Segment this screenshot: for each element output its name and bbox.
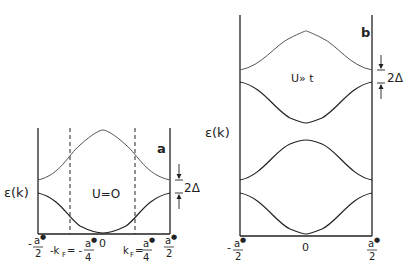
upper-band xyxy=(38,130,170,180)
svg-text:●: ● xyxy=(240,236,246,244)
svg-text:F: F xyxy=(62,251,66,259)
svg-text:2: 2 xyxy=(369,251,375,262)
band-1 xyxy=(240,193,372,234)
gap-label: 2Δ xyxy=(387,71,404,85)
svg-text:●: ● xyxy=(374,236,380,244)
u-zero-label: U=O xyxy=(92,187,120,201)
svg-text:2: 2 xyxy=(35,248,41,259)
svg-text:2: 2 xyxy=(166,248,172,259)
svg-text:-: - xyxy=(28,237,32,250)
tick-pos-half: a● 2 xyxy=(164,233,177,259)
svg-text:●: ● xyxy=(40,233,46,241)
band-3 xyxy=(240,82,372,123)
tick-neg-half: - a● 2 xyxy=(28,233,46,259)
gap-indicator: 2Δ xyxy=(175,164,201,209)
band-4 xyxy=(240,31,372,70)
svg-text:= -: = - xyxy=(67,245,83,256)
panel-a: ε(k) U=O a 2Δ - a● 2 -kF = - a● 4 0 kF xyxy=(4,128,201,263)
svg-text:k: k xyxy=(123,245,129,256)
svg-text:4: 4 xyxy=(85,252,91,263)
svg-text:2: 2 xyxy=(235,251,241,262)
tick-zero: 0 xyxy=(302,241,309,254)
svg-text:-k: -k xyxy=(50,245,60,256)
y-axis-label: ε(k) xyxy=(205,125,230,140)
panel-tag: b xyxy=(361,25,370,40)
svg-text:-: - xyxy=(227,241,231,254)
tick-pos-kf: kF = a● 4 xyxy=(123,236,155,263)
gap-label: 2Δ xyxy=(184,181,201,195)
tick-pos-half: a● 2 xyxy=(367,236,380,262)
u-large-label: U» t xyxy=(291,72,314,85)
band-structure-diagram: ε(k) U=O a 2Δ - a● 2 -kF = - a● 4 0 kF xyxy=(0,0,415,276)
panel-tag: a xyxy=(157,141,166,156)
svg-text:●: ● xyxy=(91,236,97,244)
svg-text:4: 4 xyxy=(143,252,149,263)
panel-b: ε(k) U» t b 2Δ - a● 2 0 a● 2 xyxy=(205,15,404,262)
tick-neg-kf: -kF = - a● 4 xyxy=(50,236,97,263)
svg-text:●: ● xyxy=(171,233,177,241)
y-axis-label: ε(k) xyxy=(4,185,29,200)
svg-text:●: ● xyxy=(149,236,155,244)
svg-text:F: F xyxy=(130,251,134,259)
tick-neg-half: - a● 2 xyxy=(227,236,246,262)
gap-indicator: 2Δ xyxy=(377,55,404,99)
tick-zero: 0 xyxy=(99,237,106,250)
band-2 xyxy=(240,140,372,180)
